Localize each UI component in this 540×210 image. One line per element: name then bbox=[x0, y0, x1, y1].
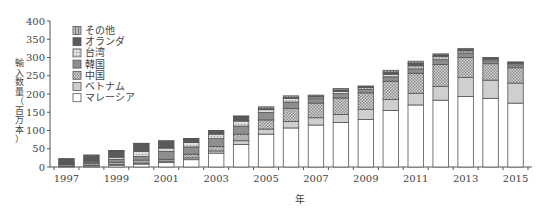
bar-segment bbox=[508, 103, 523, 167]
legend-swatch bbox=[73, 27, 81, 35]
bar-segment bbox=[258, 110, 273, 113]
bar-segment bbox=[208, 131, 223, 132]
bar-2001 bbox=[159, 141, 174, 167]
bar-segment bbox=[258, 107, 273, 108]
bar-segment bbox=[433, 100, 448, 167]
y-tick-label: 50 bbox=[32, 143, 45, 154]
bar-2008 bbox=[333, 89, 348, 167]
legend-label: マレーシア bbox=[85, 92, 135, 103]
bar-segment bbox=[333, 89, 348, 90]
y-title-char: 入 bbox=[15, 68, 24, 78]
bar-segment bbox=[433, 60, 448, 65]
y-title-char: 百 bbox=[15, 106, 24, 116]
bar-segment bbox=[483, 80, 498, 98]
bar-segment bbox=[258, 129, 273, 134]
bar-segment bbox=[233, 144, 248, 167]
bar-segment bbox=[433, 64, 448, 86]
y-title-char: ） bbox=[15, 134, 24, 144]
x-axis-title: 年 bbox=[295, 193, 305, 205]
bar-segment bbox=[134, 144, 149, 152]
bar-segment bbox=[258, 120, 273, 129]
bar-2005 bbox=[258, 107, 273, 167]
legend-swatch bbox=[73, 38, 81, 46]
x-axis: 1997199920012003200520072009201120132015 bbox=[50, 167, 532, 184]
legend-swatch bbox=[73, 71, 81, 79]
legend-swatch bbox=[73, 49, 81, 57]
bar-segment bbox=[358, 86, 373, 87]
y-tick-label: 0 bbox=[39, 162, 45, 173]
bar-segment bbox=[183, 147, 198, 154]
bar-segment bbox=[333, 114, 348, 122]
y-axis-title: 輸入数量（百万本） bbox=[15, 57, 24, 144]
bar-segment bbox=[408, 61, 423, 63]
bar-2009 bbox=[358, 86, 373, 167]
bar-segment bbox=[159, 163, 174, 167]
bar-segment bbox=[333, 98, 348, 114]
bar-1999 bbox=[109, 151, 124, 167]
x-tick-label: 1999 bbox=[104, 173, 129, 184]
bar-segment bbox=[283, 98, 298, 102]
bar-segment bbox=[383, 77, 398, 81]
legend-swatch bbox=[73, 83, 81, 91]
bar-2000 bbox=[134, 143, 149, 167]
bar-segment bbox=[333, 94, 348, 98]
bar-segment bbox=[508, 62, 523, 63]
bar-segment bbox=[508, 83, 523, 103]
x-tick-label: 2013 bbox=[453, 173, 478, 184]
bar-segment bbox=[134, 160, 149, 163]
bar-segment bbox=[408, 105, 423, 167]
bar-segment bbox=[458, 53, 473, 57]
bar-segment bbox=[183, 154, 198, 158]
bar-segment bbox=[84, 155, 99, 161]
bar-segment bbox=[109, 151, 124, 157]
bar-segment bbox=[483, 61, 498, 64]
bar-2015 bbox=[508, 62, 523, 167]
x-tick-label: 2005 bbox=[253, 173, 278, 184]
bar-2002 bbox=[183, 139, 198, 167]
bar-segment bbox=[109, 159, 124, 162]
y-title-char: 本 bbox=[15, 124, 24, 135]
bar-2007 bbox=[308, 95, 323, 167]
bar-segment bbox=[308, 125, 323, 167]
bar-segment bbox=[308, 103, 323, 118]
y-tick-label: 400 bbox=[26, 16, 45, 27]
bar-segment bbox=[134, 151, 149, 156]
bar-segment bbox=[433, 54, 448, 55]
bar-segment bbox=[159, 141, 174, 148]
y-title-char: 輸 bbox=[15, 57, 24, 68]
bar-segment bbox=[233, 141, 248, 145]
y-title-char: 万 bbox=[15, 115, 24, 125]
bar-segment bbox=[458, 78, 473, 97]
bar-segment bbox=[383, 70, 398, 72]
bar-segment bbox=[408, 63, 423, 66]
x-tick-label: 2001 bbox=[154, 173, 179, 184]
x-tick-label: 2009 bbox=[353, 173, 378, 184]
bar-segment bbox=[383, 99, 398, 110]
bar-segment bbox=[134, 156, 149, 160]
bar-segment bbox=[483, 64, 498, 80]
bar-segment bbox=[283, 96, 298, 97]
bar-2006 bbox=[283, 96, 298, 167]
legend-swatch bbox=[73, 94, 81, 102]
bar-segment bbox=[208, 147, 223, 151]
y-tick-label: 350 bbox=[26, 34, 45, 45]
bar-segment bbox=[333, 122, 348, 167]
bar-segment bbox=[283, 109, 298, 122]
bar-segment bbox=[458, 97, 473, 167]
bar-segment bbox=[483, 98, 498, 167]
bar-segment bbox=[508, 68, 523, 83]
bar-segment bbox=[433, 57, 448, 60]
bar-segment bbox=[183, 160, 198, 167]
x-tick-label: 1997 bbox=[54, 173, 79, 184]
bar-2013 bbox=[458, 48, 473, 167]
bar-segment bbox=[258, 113, 273, 120]
bar-segment bbox=[358, 89, 373, 93]
bar-segment bbox=[159, 151, 174, 159]
legend-label: 韓国 bbox=[85, 59, 105, 70]
bar-segment bbox=[408, 66, 423, 69]
bar-2004 bbox=[233, 116, 248, 167]
bar-segment bbox=[208, 131, 223, 134]
bar-segment bbox=[358, 93, 373, 109]
bar-segment bbox=[283, 102, 298, 109]
x-tick-label: 2007 bbox=[303, 173, 328, 184]
